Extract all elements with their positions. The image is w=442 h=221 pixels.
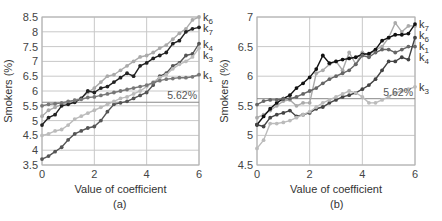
x-tick-label: 4 [144, 168, 150, 180]
data-point [119, 97, 123, 101]
data-point [367, 52, 371, 56]
data-point [73, 99, 77, 103]
data-point [354, 55, 358, 59]
data-point [400, 48, 404, 52]
data-point [92, 125, 96, 129]
data-point [314, 105, 318, 109]
data-point [295, 86, 299, 90]
data-point [197, 42, 201, 46]
data-point [281, 97, 285, 101]
data-point [138, 85, 142, 89]
data-point [308, 89, 312, 93]
data-point [347, 89, 351, 93]
y-tick-label: 4 [32, 144, 38, 156]
y-tick-label: 6.5 [23, 70, 38, 82]
data-point [275, 122, 279, 126]
data-point [295, 116, 299, 120]
chart-panel-b: 4.555.566.5702465.62%k7k6k1k4k3Value of … [218, 11, 430, 195]
data-point [106, 102, 110, 106]
y-tick-label: 4.5 [238, 159, 253, 171]
data-point [301, 113, 305, 117]
x-tick-label: 2 [91, 168, 97, 180]
data-point [354, 62, 358, 66]
data-point [262, 138, 266, 142]
data-point [132, 74, 136, 78]
data-point [158, 79, 162, 83]
reference-line-label: 5.62% [383, 86, 413, 98]
data-point [177, 76, 181, 80]
data-point [321, 81, 325, 85]
x-tick-label: 0 [39, 168, 45, 180]
data-point [374, 77, 378, 81]
x-tick-label: 2 [307, 168, 313, 180]
chart-panel-a: 3.544.555.566.577.588.502465.62%k6k7k4k3… [2, 11, 214, 195]
data-point [407, 32, 411, 36]
x-tick-label: 6 [196, 168, 202, 180]
data-point [53, 102, 57, 106]
data-point [314, 86, 318, 90]
data-point [53, 150, 57, 154]
data-point [197, 25, 201, 29]
data-point [125, 88, 129, 92]
data-point [86, 89, 90, 93]
data-point [360, 95, 364, 99]
data-point [47, 132, 51, 136]
data-point [132, 97, 136, 101]
data-point [347, 57, 351, 61]
data-point [60, 101, 64, 105]
data-point [40, 114, 44, 118]
data-point [112, 99, 116, 103]
data-point [347, 93, 351, 97]
data-point [380, 68, 384, 72]
data-point [321, 68, 325, 72]
series-label-k1: k1 [203, 69, 214, 84]
data-point [138, 55, 142, 59]
data-point [197, 46, 201, 50]
data-point [360, 87, 364, 91]
data-point [60, 145, 64, 149]
data-point [295, 104, 299, 108]
data-point [138, 94, 142, 98]
data-point [341, 92, 345, 96]
data-point [125, 71, 129, 75]
data-point [321, 101, 325, 105]
data-point [66, 138, 70, 142]
y-tick-label: 5 [32, 115, 38, 127]
data-point [47, 154, 51, 158]
data-point [184, 30, 188, 34]
data-point [281, 111, 285, 115]
data-point [400, 33, 404, 37]
data-point [288, 97, 292, 101]
data-point [112, 91, 116, 95]
data-point [79, 129, 83, 133]
data-point [138, 64, 142, 68]
y-tick-label: 5.5 [238, 100, 253, 112]
data-point [99, 94, 103, 98]
data-point [387, 36, 391, 40]
data-point [99, 86, 103, 90]
data-point [106, 110, 110, 114]
data-point [125, 99, 129, 103]
data-point [145, 91, 149, 95]
data-point [184, 76, 188, 80]
data-point [92, 95, 96, 99]
data-point [171, 77, 175, 81]
data-point [164, 73, 168, 77]
data-point [334, 74, 338, 78]
data-point [295, 95, 299, 99]
data-point [301, 101, 305, 105]
data-point [387, 48, 391, 52]
data-point [380, 98, 384, 102]
y-tick-label: 3.5 [23, 159, 38, 171]
data-point [255, 147, 259, 151]
data-point [112, 73, 116, 77]
series-k1 [255, 36, 417, 129]
data-point [413, 45, 417, 49]
data-point [164, 43, 168, 47]
data-point [255, 123, 259, 127]
figure: 3.544.555.566.577.588.502465.62%k6k7k4k3… [0, 0, 442, 221]
data-point [106, 85, 110, 89]
data-point [393, 60, 397, 64]
data-point [374, 51, 378, 55]
series-label-k3: k3 [419, 81, 430, 96]
